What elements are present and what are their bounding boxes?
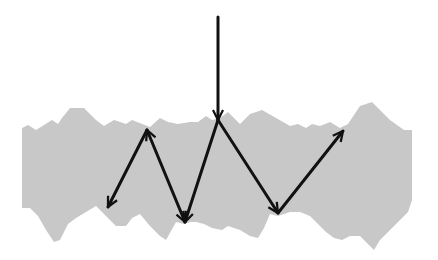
diagram-canvas — [0, 0, 438, 260]
scattering-diagram — [0, 0, 438, 260]
